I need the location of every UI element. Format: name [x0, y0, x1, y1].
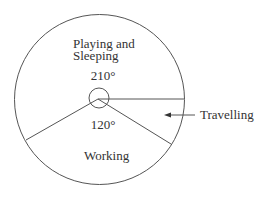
label-travelling: Travelling — [200, 107, 254, 122]
pie-diagram: Playing and Sleeping 210° 120° Working T… — [0, 0, 262, 198]
radius-working-left — [26, 99, 98, 140]
angle-label-210: 210° — [91, 68, 116, 83]
arrow-left-icon — [164, 113, 171, 118]
angle-label-120: 120° — [91, 117, 116, 132]
angle-arc-marker — [89, 88, 109, 108]
label-working: Working — [84, 148, 130, 163]
label-playing-line2: Sleeping — [73, 48, 119, 63]
